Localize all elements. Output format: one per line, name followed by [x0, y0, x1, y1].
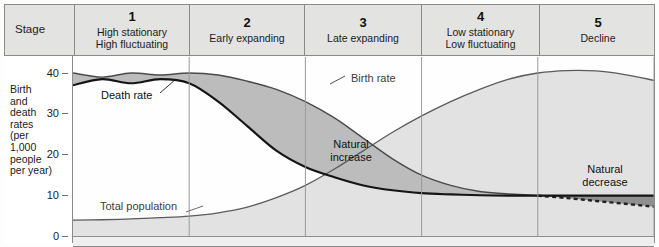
below-axis-band	[73, 237, 654, 247]
birth-rate-leader-line	[330, 76, 345, 84]
natural-decrease-annotation: Naturaldecrease	[566, 163, 644, 188]
chart-canvas	[0, 0, 659, 247]
natural-increase-annotation: Naturalincrease	[312, 138, 390, 163]
birth-rate-annotation: Birth rate	[351, 72, 396, 85]
total-population-annotation: Total population	[100, 200, 177, 213]
death-rate-annotation: Death rate	[101, 89, 152, 102]
total-population-leader-line	[186, 206, 203, 212]
death-rate-leader-line	[160, 79, 176, 93]
demographic-transition-diagram: Stage 1 High stationaryHigh fluctuating …	[0, 0, 659, 247]
